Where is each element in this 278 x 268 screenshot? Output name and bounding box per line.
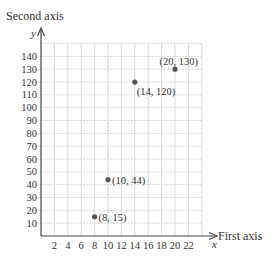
point-label: (14, 120) <box>137 86 176 98</box>
y-tick-label: 10 <box>27 218 38 229</box>
x-tick-label: 16 <box>143 240 154 251</box>
y-tick-label: 100 <box>21 102 37 113</box>
point-marker-icon <box>105 177 110 182</box>
y-tick-label: 120 <box>21 77 37 88</box>
x-axis-title: First axis <box>218 229 263 243</box>
x-tick-label: 14 <box>130 240 141 251</box>
x-tick-label: 22 <box>183 240 194 251</box>
y-tick-label: 140 <box>21 51 37 62</box>
y-tick-label: 110 <box>22 89 37 100</box>
data-point: (10, 44) <box>105 175 145 187</box>
y-tick-label: 80 <box>27 128 38 139</box>
x-tick-label: 8 <box>92 240 97 251</box>
y-tick-label: 20 <box>27 205 38 216</box>
y-axis-title: Second axis <box>6 9 64 23</box>
x-tick-label: 4 <box>65 240 71 251</box>
x-tick-label: 6 <box>79 240 84 251</box>
y-tick-label: 40 <box>27 179 38 190</box>
scatter-chart: 246810121416182022 102030405060708090100… <box>0 0 278 268</box>
point-label: (20, 130) <box>160 56 199 68</box>
y-tick-label: 130 <box>21 64 37 75</box>
y-tick-label: 60 <box>27 154 38 165</box>
y-tick-label: 50 <box>27 166 38 177</box>
x-tick-label: 2 <box>52 240 57 251</box>
y-axis-variable: y <box>30 27 36 39</box>
x-tick-label: 12 <box>116 240 127 251</box>
point-marker-icon <box>132 79 137 84</box>
x-axis-variable: x <box>211 238 217 250</box>
point-marker-icon <box>172 67 177 72</box>
y-tick-label: 30 <box>27 192 38 203</box>
point-label: (10, 44) <box>112 175 146 187</box>
x-tick-labels: 246810121416182022 <box>52 240 194 251</box>
y-tick-label: 90 <box>27 115 38 126</box>
point-marker-icon <box>92 214 97 219</box>
x-tick-label: 18 <box>156 240 167 251</box>
grid <box>41 44 202 236</box>
y-tick-label: 70 <box>27 141 38 152</box>
data-point: (8, 15) <box>92 212 127 224</box>
x-tick-label: 10 <box>103 240 114 251</box>
point-label: (8, 15) <box>99 212 127 224</box>
y-tick-labels: 102030405060708090100110120130140 <box>21 51 37 229</box>
x-tick-label: 20 <box>170 240 181 251</box>
